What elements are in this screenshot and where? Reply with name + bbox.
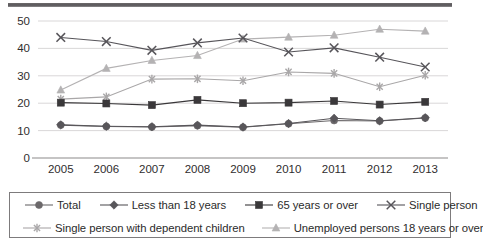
legend-marker xyxy=(272,223,280,230)
data-point-2012 xyxy=(376,101,383,108)
legend-item-single-person[interactable]: Single person xyxy=(376,198,477,212)
legend-swatch-svg xyxy=(24,198,54,212)
data-point-2013 xyxy=(421,114,429,122)
legend-label: Total xyxy=(57,199,81,211)
data-point-2010 xyxy=(284,119,292,127)
legend-marker xyxy=(256,201,263,208)
y-tick-label-30: 30 xyxy=(17,70,30,82)
chart-legend: TotalLess than 18 years65 years or overS… xyxy=(9,192,451,238)
data-point-2009 xyxy=(240,100,247,107)
legend-label: Unemployed persons 18 years or over xyxy=(294,222,483,234)
x-tick-label-2006: 2006 xyxy=(94,163,120,175)
legend-marker-cross-icon xyxy=(376,198,406,212)
legend-swatch-svg xyxy=(244,198,274,212)
series-single-person xyxy=(56,33,429,71)
x-tick-label-2010: 2010 xyxy=(276,163,302,175)
data-point-2012 xyxy=(375,53,384,62)
legend-marker xyxy=(36,201,43,208)
legend-item-unemployed-persons-18-years-or-over[interactable]: Unemployed persons 18 years or over xyxy=(261,221,483,235)
legend-swatch-svg xyxy=(376,198,406,212)
data-point-2008 xyxy=(194,96,201,103)
data-point-2006 xyxy=(102,122,110,130)
line-chart: 0102030405020052006200720082009201020112… xyxy=(0,12,460,188)
legend-row-secondary: Single person with dependent childrenUne… xyxy=(10,216,450,239)
legend-row-primary: TotalLess than 18 years65 years or overS… xyxy=(10,193,450,216)
y-tick-label-10: 10 xyxy=(17,125,30,137)
legend-label: 65 years or over xyxy=(277,199,358,211)
legend-marker-circle-icon xyxy=(24,198,54,212)
x-tick-label-2005: 2005 xyxy=(48,163,74,175)
legend-label: Single person with dependent children xyxy=(55,222,245,234)
data-point-2013 xyxy=(422,98,429,105)
y-tick-label-50: 50 xyxy=(17,15,30,27)
x-tick-label-2007: 2007 xyxy=(139,163,165,175)
plot-area: 0102030405020052006200720082009201020112… xyxy=(0,12,460,188)
data-point-2012 xyxy=(375,117,383,125)
x-tick-label-2008: 2008 xyxy=(185,163,211,175)
legend-swatch-svg xyxy=(22,221,52,235)
data-point-2005 xyxy=(57,86,65,93)
data-point-2009 xyxy=(239,123,247,131)
legend-swatch-svg xyxy=(261,221,291,235)
series-65-years-or-over xyxy=(57,96,428,108)
legend-item-total[interactable]: Total xyxy=(24,198,81,212)
data-point-2013 xyxy=(421,63,430,72)
legend-label: Less than 18 years xyxy=(132,199,227,211)
legend-marker-triangle-icon xyxy=(261,221,291,235)
data-point-2007 xyxy=(148,123,156,131)
legend-marker-asterisk-icon xyxy=(22,221,52,235)
y-tick-label-40: 40 xyxy=(17,42,30,54)
x-tick-label-2011: 2011 xyxy=(322,163,347,175)
y-tick-label-20: 20 xyxy=(17,97,30,109)
data-point-2011 xyxy=(331,98,338,105)
y-tick-label-0: 0 xyxy=(24,152,30,164)
x-tick-label-2009: 2009 xyxy=(230,163,256,175)
x-tick-label-2012: 2012 xyxy=(367,163,393,175)
data-point-2007 xyxy=(148,102,155,109)
x-tick-label-2013: 2013 xyxy=(412,163,438,175)
legend-label: Single person xyxy=(409,199,477,211)
legend-marker-diamond-icon xyxy=(99,198,129,212)
data-point-2006 xyxy=(103,100,110,107)
series-single-person-with-dependent-children xyxy=(58,68,429,104)
series-less-than-18-years xyxy=(57,114,430,132)
header-rule xyxy=(8,3,452,7)
legend-marker xyxy=(109,200,117,208)
legend-item-65-years-or-over[interactable]: 65 years or over xyxy=(244,198,358,212)
data-point-2010 xyxy=(285,99,292,106)
legend-marker-square-icon xyxy=(244,198,274,212)
legend-item-less-than-18-years[interactable]: Less than 18 years xyxy=(99,198,227,212)
data-point-2005 xyxy=(57,121,65,129)
data-point-2005 xyxy=(57,99,64,106)
legend-item-single-person-with-dependent-children[interactable]: Single person with dependent children xyxy=(22,221,245,235)
legend-swatch-svg xyxy=(99,198,129,212)
data-point-2012 xyxy=(376,25,384,32)
